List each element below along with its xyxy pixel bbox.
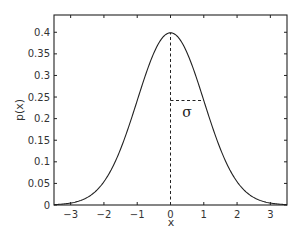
y-tick-label: 0.4: [34, 27, 50, 38]
x-tick-label: 3: [267, 209, 273, 220]
normal-distribution-chart: −3−2−10123 00.050.10.150.20.250.30.350.4…: [0, 0, 303, 234]
x-tick-label: −2: [97, 209, 112, 220]
x-tick-label: −3: [63, 209, 78, 220]
y-tick-label: 0.35: [28, 48, 50, 59]
x-tick-label: 2: [234, 209, 240, 220]
y-tick-label: 0.05: [28, 178, 50, 189]
y-axis-ticks: 00.050.10.150.20.250.30.350.4: [28, 27, 287, 211]
sigma-annotation: σ: [182, 104, 192, 120]
x-axis-label: x: [168, 216, 175, 229]
pdf-curve: [54, 33, 287, 205]
y-tick-label: 0: [44, 200, 50, 211]
y-tick-label: 0.1: [34, 156, 50, 167]
y-tick-label: 0.3: [34, 70, 50, 81]
x-tick-label: −1: [130, 209, 145, 220]
y-tick-label: 0.15: [28, 135, 50, 146]
x-axis-ticks: −3−2−10123: [63, 15, 273, 220]
y-axis-label: p(x): [13, 99, 26, 121]
y-tick-label: 0.2: [34, 113, 50, 124]
y-tick-label: 0.25: [28, 92, 50, 103]
x-tick-label: 1: [201, 209, 207, 220]
